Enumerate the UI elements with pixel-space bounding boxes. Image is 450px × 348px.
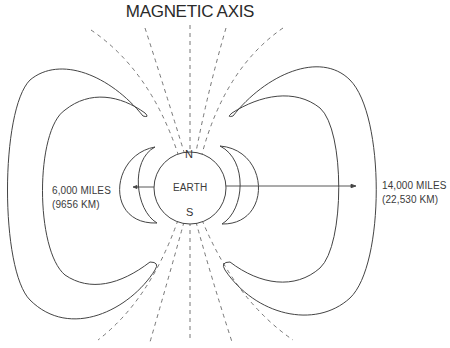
- inner-belt-distance-miles: 6,000 MILES: [52, 184, 111, 197]
- earth-label: EARTH: [173, 181, 207, 194]
- inner-belt-distance-km: (9656 KM): [52, 198, 100, 211]
- van-allen-belts-diagram: [0, 0, 450, 348]
- south-pole-label: S: [186, 206, 193, 218]
- outer-belt-distance-miles: 14,000 MILES: [382, 179, 447, 192]
- field-lines-north: [91, 25, 283, 154]
- diagram-title: MAGNETIC AXIS: [115, 2, 265, 22]
- field-lines-south: [98, 220, 293, 342]
- outer-belt-distance-km: (22,530 KM): [382, 193, 438, 206]
- inner-belt-left: [120, 147, 157, 223]
- north-pole-label: N: [185, 148, 193, 160]
- outer-belt-right: [223, 67, 376, 315]
